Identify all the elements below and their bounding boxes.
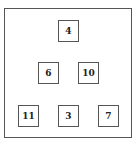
node-box: 11: [18, 105, 39, 127]
node-label: 10: [82, 68, 95, 78]
node-box: 4: [58, 20, 79, 42]
node-label: 7: [105, 111, 111, 121]
node-label: 4: [65, 26, 71, 36]
node-label: 6: [45, 68, 51, 78]
node-box: 6: [38, 62, 59, 84]
node-box: 7: [98, 105, 119, 127]
node-label: 11: [22, 111, 35, 121]
node-label: 3: [65, 111, 71, 121]
node-box: 10: [78, 62, 99, 84]
node-box: 3: [58, 105, 79, 127]
